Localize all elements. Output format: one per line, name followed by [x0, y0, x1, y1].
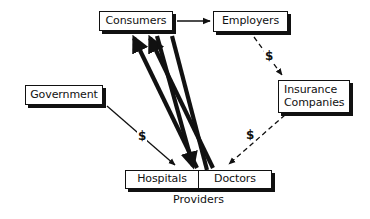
- node-providers: Hospitals Doctors: [125, 170, 272, 189]
- node-insurance-line-2: Companies: [284, 96, 344, 109]
- node-consumers[interactable]: Consumers: [99, 11, 173, 31]
- node-hospitals-label: Hospitals: [137, 173, 187, 186]
- node-employers[interactable]: Employers: [213, 11, 288, 32]
- node-doctors[interactable]: Doctors: [198, 171, 271, 188]
- dollar-label-government-hospitals: $: [137, 130, 147, 142]
- dollar-label-employers-insurance: $: [264, 50, 274, 62]
- providers-caption: Providers: [125, 193, 272, 206]
- edge-insurance-to-doctors: [229, 115, 285, 164]
- node-consumers-label: Consumers: [106, 15, 167, 28]
- node-government-label: Government: [30, 89, 98, 102]
- dollar-label-insurance-doctors: $: [245, 129, 255, 141]
- node-hospitals[interactable]: Hospitals: [126, 171, 198, 188]
- node-insurance-line-1: Insurance: [284, 83, 337, 96]
- node-government[interactable]: Government: [25, 85, 103, 105]
- flow-diagram: Consumers Employers Government Insurance…: [0, 0, 370, 219]
- node-insurance-companies-label: Insurance Companies: [284, 84, 344, 110]
- node-employers-label: Employers: [222, 15, 279, 28]
- node-doctors-label: Doctors: [214, 173, 256, 186]
- node-insurance-companies[interactable]: Insurance Companies: [278, 80, 350, 113]
